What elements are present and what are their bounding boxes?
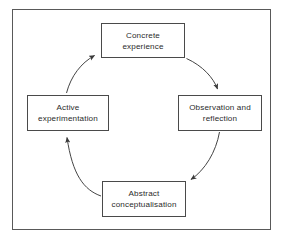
node-active-experimentation[interactable]: Active experimentation: [27, 95, 109, 131]
node-concrete-experience-label: Concrete experience: [120, 30, 165, 52]
arrow-abstract-to-active: [67, 138, 101, 197]
node-concrete-experience[interactable]: Concrete experience: [101, 23, 185, 58]
node-observation-and-reflection[interactable]: Observation and reflection: [178, 95, 262, 131]
node-active-experimentation-label: Active experimentation: [36, 102, 100, 124]
node-abstract-conceptualisation[interactable]: Abstract conceptualisation: [102, 181, 186, 217]
arrow-observation-to-abstract: [191, 132, 220, 180]
arrow-active-to-concrete: [67, 56, 95, 94]
node-abstract-conceptualisation-label: Abstract conceptualisation: [109, 188, 178, 210]
figure-root: Concrete experience Observation and refl…: [0, 0, 281, 238]
node-observation-and-reflection-label: Observation and reflection: [187, 102, 253, 124]
arrow-concrete-to-observation: [187, 59, 218, 90]
